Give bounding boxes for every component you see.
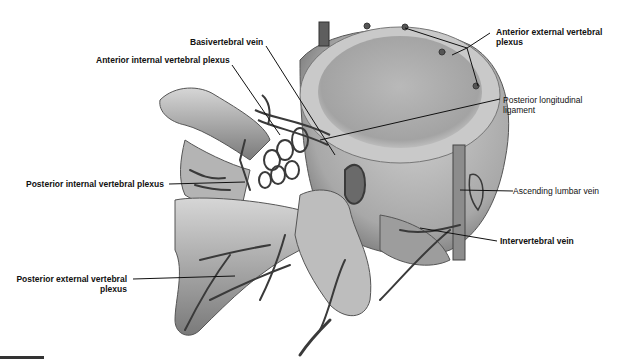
label-anterior-internal-vertebral-plexus: Anterior internal vertebral plexus: [96, 55, 230, 65]
transverse-process-upper: [160, 88, 270, 160]
label-line-1: Posterior external vertebral: [14, 274, 127, 284]
label-posterior-longitudinal-ligament: Posterior longitudinal ligament: [503, 95, 582, 115]
label-line-2: plexus: [14, 284, 127, 294]
label-line-1: Posterior longitudinal: [503, 95, 582, 105]
label-line-2: plexus: [496, 37, 602, 47]
label-ascending-lumbar-vein: Ascending lumbar vein: [513, 186, 599, 196]
label-anterior-external-vertebral-plexus: Anterior external vertebral plexus: [496, 27, 602, 47]
anatomy-figure: Basivertebral vein Anterior internal ver…: [0, 0, 621, 360]
label-line-2: ligament: [503, 105, 582, 115]
label-posterior-internal-vertebral-plexus: Posterior internal vertebral plexus: [26, 179, 164, 189]
label-basivertebral-vein: Basivertebral vein: [190, 37, 263, 47]
label-line-1: Anterior external vertebral: [496, 27, 602, 37]
footer-bar: [0, 356, 44, 359]
label-posterior-external-vertebral-plexus: Posterior external vertebral plexus: [14, 274, 127, 294]
label-intervertebral-vein: Intervertebral vein: [500, 236, 574, 246]
